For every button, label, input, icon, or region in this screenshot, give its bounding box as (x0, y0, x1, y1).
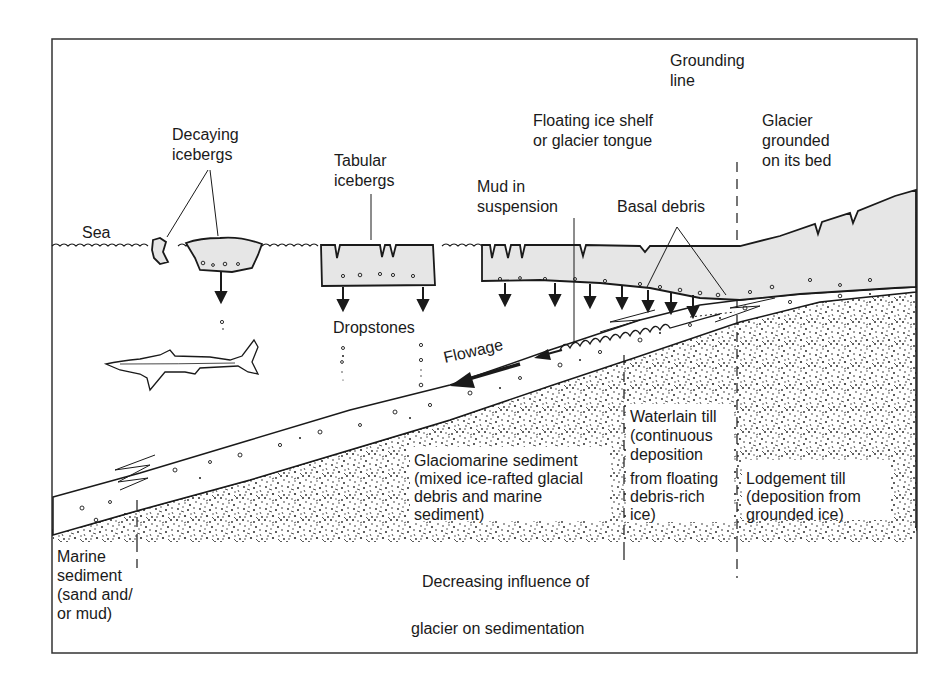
diagram-canvas: Grounding line Decaying icebergs Tabular… (0, 0, 943, 685)
glacier-sedimentation-diagram: Grounding line Decaying icebergs Tabular… (0, 0, 943, 685)
decaying-icebergs-leader-2 (210, 170, 218, 236)
flowage-label: Flowage (442, 336, 505, 366)
basal-debris-label: Basal debris (617, 198, 705, 215)
mud-suspension-label-1: Mud in (477, 178, 525, 195)
marine-sediment-label-4: or mud) (57, 605, 112, 622)
shark-illustration (106, 340, 258, 390)
ice-shelf-label-2: or glacier tongue (533, 132, 652, 149)
glacier-grounded-label-1: Glacier (762, 112, 813, 129)
sea-label: Sea (82, 224, 111, 241)
lodgement-label-3: grounded ice) (746, 506, 844, 523)
marine-sediment-label-3: (sand and/ (57, 586, 133, 603)
flowage-arrowhead (450, 372, 475, 388)
glaciomarine-label-1: Glaciomarine sediment (414, 452, 578, 469)
waterlain-label-3: deposition (630, 446, 703, 463)
dropstones-label: Dropstones (333, 319, 415, 336)
waterlain-label-4: from floating (630, 470, 718, 487)
tabular-icebergs-label-2: icebergs (334, 172, 394, 189)
waterlain-label-5: debris-rich (630, 488, 705, 505)
glaciomarine-label-3: debris and marine (414, 488, 542, 505)
grounding-line-label-2: line (670, 72, 695, 89)
decaying-icebergs-leader-1 (167, 170, 208, 237)
decaying-iceberg-large (186, 238, 262, 272)
tabular-icebergs-label-1: Tabular (334, 152, 387, 169)
decaying-icebergs-label-1: Decaying (172, 126, 239, 143)
waterlain-label-2: (continuous (630, 427, 713, 444)
influence-label-1: Decreasing influence of (422, 573, 590, 590)
till-base-band (53, 528, 916, 542)
marine-sediment-label-2: sediment (57, 567, 122, 584)
grounding-line-label-1: Grounding (670, 52, 745, 69)
glacier-grounded-label-2: grounded (762, 132, 830, 149)
influence-label-2: glacier on sedimentation (411, 620, 584, 637)
marine-sediment-label-1: Marine (57, 548, 106, 565)
glaciomarine-label-2: (mixed ice-rafted glacial (414, 470, 583, 487)
glacier-grounded-label-3: on its bed (762, 152, 831, 169)
lodgement-label-1: Lodgement till (746, 470, 846, 487)
mud-suspension-label-2: suspension (477, 198, 558, 215)
waterlain-label-1: Waterlain till (630, 408, 717, 425)
decaying-icebergs-label-2: icebergs (172, 146, 232, 163)
tabular-iceberg (321, 245, 435, 286)
waterlain-label-6: ice) (630, 506, 656, 523)
glaciomarine-label-4: sediment) (414, 506, 484, 523)
lodgement-label-2: (deposition from (746, 488, 861, 505)
decaying-iceberg-small (152, 238, 168, 264)
ice-shelf-label-1: Floating ice shelf (533, 112, 654, 129)
